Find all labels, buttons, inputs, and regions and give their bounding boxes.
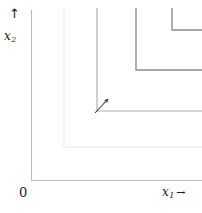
curve-inner — [136, 8, 202, 70]
diagram-svg — [0, 0, 202, 213]
level-curves-group — [64, 8, 202, 147]
y-axis-label-base: x — [4, 29, 11, 43]
figure-canvas: ↑ x2 x1→ 0 — [0, 0, 202, 213]
origin-label: 0 — [19, 186, 27, 199]
y-axis-label-subscript: 2 — [11, 35, 16, 44]
x-axis-arrow-icon: → — [176, 186, 185, 199]
x-axis-label: x1→ — [162, 186, 185, 200]
y-axis-arrow-icon: ↑ — [9, 7, 20, 20]
x-axis-label-subscript: 1 — [169, 191, 174, 200]
y-axis-label: x2 — [4, 30, 16, 44]
curve-outer — [64, 8, 202, 147]
curve-innermost — [172, 8, 202, 30]
axes-group — [31, 10, 202, 181]
curve-middle — [97, 8, 202, 111]
x-axis-label-base: x — [162, 185, 169, 199]
